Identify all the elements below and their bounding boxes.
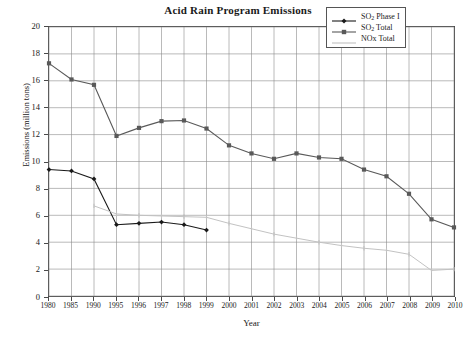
x-tick-mark: [48, 297, 49, 301]
y-tick-label: 4: [0, 238, 40, 247]
x-tick-mark: [184, 297, 185, 301]
x-tick-mark: [365, 297, 366, 301]
y-tick-mark: [44, 216, 48, 217]
y-tick-label: 0: [0, 293, 40, 302]
x-axis-label: Year: [48, 318, 455, 328]
y-axis-label: Emissions (million tons): [21, 55, 31, 195]
x-tick-mark: [71, 297, 72, 301]
x-tick-mark: [206, 297, 207, 301]
x-tick-mark: [455, 297, 456, 301]
x-tick-mark: [274, 297, 275, 301]
data-series-layer: [49, 27, 454, 296]
y-tick-label: 8: [0, 184, 40, 193]
x-tick-mark: [432, 297, 433, 301]
x-tick-mark: [387, 297, 388, 301]
y-tick-mark: [44, 26, 48, 27]
y-tick-label: 18: [0, 49, 40, 58]
series-nox-total: [94, 204, 454, 273]
x-tick-label: 2010: [441, 302, 469, 310]
x-tick-mark: [319, 297, 320, 301]
x-tick-mark: [342, 297, 343, 301]
x-tick-mark: [410, 297, 411, 301]
y-tick-label: 16: [0, 76, 40, 85]
y-tick-label: 20: [0, 22, 40, 31]
x-tick-mark: [297, 297, 298, 301]
legend-item[interactable]: SO2 Phase I: [331, 11, 400, 22]
y-tick-mark: [44, 189, 48, 190]
legend-item[interactable]: NOx Total: [331, 33, 400, 44]
y-tick-label: 2: [0, 265, 40, 274]
chart-figure: Acid Rain Program Emissions 024681012141…: [0, 0, 476, 342]
y-tick-label: 14: [0, 103, 40, 112]
legend-marker-icon: [331, 34, 357, 44]
legend-label: SO2 Phase I: [361, 12, 400, 22]
legend-label: SO2 Total: [361, 23, 392, 33]
x-tick-mark: [161, 297, 162, 301]
x-tick-mark: [93, 297, 94, 301]
y-tick-mark: [44, 53, 48, 54]
legend-marker-icon: [331, 23, 357, 33]
plot-area: [48, 26, 455, 297]
y-tick-mark: [44, 107, 48, 108]
y-tick-label: 12: [0, 130, 40, 139]
x-tick-mark: [116, 297, 117, 301]
y-tick-label: 10: [0, 157, 40, 166]
y-tick-label: 6: [0, 211, 40, 220]
y-tick-mark: [44, 243, 48, 244]
y-tick-mark: [44, 162, 48, 163]
legend-label: NOx Total: [361, 34, 395, 43]
y-tick-mark: [44, 80, 48, 81]
chart-legend: SO2 Phase ISO2 TotalNOx Total: [326, 7, 406, 48]
series-so2-phase-i: [47, 167, 209, 232]
series-so2-total: [47, 61, 456, 229]
legend-marker-icon: [331, 12, 357, 22]
x-tick-mark: [252, 297, 253, 301]
x-tick-mark: [138, 297, 139, 301]
x-tick-mark: [229, 297, 230, 301]
y-tick-mark: [44, 270, 48, 271]
legend-item[interactable]: SO2 Total: [331, 22, 400, 33]
y-tick-mark: [44, 134, 48, 135]
